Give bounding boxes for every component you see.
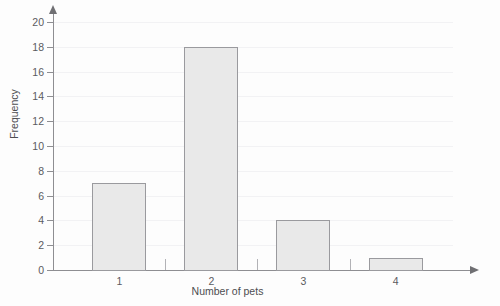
gridline <box>53 96 453 97</box>
y-axis-tick <box>47 171 54 172</box>
x-axis-boundary-tick <box>257 259 258 270</box>
y-axis-tick <box>47 47 54 48</box>
y-axis-tick-label: 20 <box>4 17 44 28</box>
y-axis-tick-label: 18 <box>4 42 44 53</box>
gridline <box>53 121 453 122</box>
gridline <box>53 171 453 172</box>
y-axis-tick <box>47 220 54 221</box>
y-axis-tick-label-wrap: 2 <box>0 240 44 251</box>
y-axis-tick-label: 8 <box>4 166 44 177</box>
y-axis-tick-label-wrap: 6 <box>0 191 44 202</box>
y-axis-tick-label: 4 <box>4 215 44 226</box>
plot-area <box>53 10 480 270</box>
gridline <box>53 22 453 23</box>
gridline <box>53 146 453 147</box>
chart-screenshot: Frequency 02468101214161820 1234 Number … <box>0 0 500 306</box>
bar <box>369 258 423 271</box>
y-axis-tick <box>47 146 54 147</box>
bar <box>276 220 330 271</box>
y-axis-tick <box>47 96 54 97</box>
y-axis-tick-label-wrap: 18 <box>0 42 44 53</box>
y-axis-tick <box>47 121 54 122</box>
y-axis-tick-label: 6 <box>4 191 44 202</box>
bar <box>92 183 146 271</box>
y-axis-tick-label: 2 <box>4 240 44 251</box>
y-axis-tick-label-wrap: 20 <box>0 17 44 28</box>
gridline <box>53 47 453 48</box>
y-axis-tick <box>47 72 54 73</box>
y-axis-tick-label: 14 <box>4 91 44 102</box>
y-axis-tick-label: 12 <box>4 116 44 127</box>
y-axis-tick-label: 0 <box>4 265 44 276</box>
y-axis-tick <box>47 196 54 197</box>
y-axis-tick <box>47 245 54 246</box>
y-axis-tick-label-wrap: 12 <box>0 116 44 127</box>
y-axis-tick-label-wrap: 4 <box>0 215 44 226</box>
y-axis-tick-label-wrap: 16 <box>0 67 44 78</box>
bar <box>184 47 238 271</box>
y-axis-tick <box>47 22 54 23</box>
gridline <box>53 72 453 73</box>
x-axis-boundary-tick <box>350 259 351 270</box>
y-axis-tick-label-wrap: 14 <box>0 91 44 102</box>
y-axis-tick <box>47 270 54 271</box>
y-axis-tick-label: 16 <box>4 67 44 78</box>
y-axis-tick-label: 10 <box>4 141 44 152</box>
y-axis-tick-label-wrap: 0 <box>0 265 44 276</box>
x-axis-title: Number of pets <box>0 285 500 297</box>
cropped-title-text <box>0 0 500 3</box>
x-axis-title-label: Number of pets <box>192 285 264 297</box>
y-axis-tick-label-wrap: 10 <box>0 141 44 152</box>
y-axis-tick-label-wrap: 8 <box>0 166 44 177</box>
x-axis-boundary-tick <box>165 259 166 270</box>
